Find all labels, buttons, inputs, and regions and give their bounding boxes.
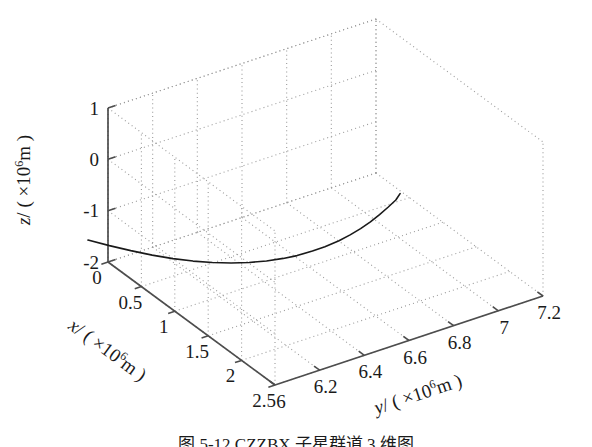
- x-axis-tick: [101, 262, 108, 264]
- figure-container: -2-10100.511.522.566.26.46.66.877.2 z/ (…: [0, 0, 592, 447]
- z-tick-label: -1: [83, 200, 99, 221]
- z-axis-tick: [108, 105, 116, 108]
- y-axis-tick: [359, 351, 365, 355]
- z-axis-tick: [108, 208, 116, 211]
- trajectory-path: [88, 194, 400, 263]
- y-tick-label: 6.8: [448, 332, 472, 353]
- axis-ticks: [101, 105, 543, 387]
- y-axis-tick: [448, 322, 454, 326]
- x-tick-label: 1: [159, 316, 169, 337]
- y-tick-label: 7.2: [537, 302, 561, 323]
- grid-line-floor-x: [175, 222, 443, 311]
- x-axis-tick: [268, 385, 275, 387]
- y-tick-label: 7: [500, 317, 510, 338]
- grid-line-wall-left-horizontal: [108, 211, 275, 334]
- grid-line-wall-left-horizontal: [108, 108, 275, 231]
- grid-line-floor-y: [242, 218, 409, 341]
- axis-titles: z/ ( ×106m )x/ ( ×106m )y/ ( ×106m ): [12, 135, 465, 420]
- box-edge-top-far: [376, 19, 543, 142]
- grid-line-floor-y: [153, 247, 320, 370]
- y-tick-label: 6.4: [358, 361, 382, 382]
- figure-caption: 图 5-12 CZZBX 子星群道 3 维图: [0, 433, 592, 447]
- x-tick-label: 2.5: [252, 390, 276, 411]
- grid-lines: [108, 19, 543, 385]
- y-axis-tick: [537, 292, 543, 296]
- x-tick-label: 0: [92, 267, 102, 288]
- grid-line-floor-y: [331, 188, 498, 311]
- y-tick-label: 6.2: [314, 376, 338, 397]
- y-tick-label: 6: [276, 391, 286, 412]
- y-tick-label: 6.6: [403, 347, 427, 368]
- grid-line-floor-y: [197, 232, 364, 355]
- y-axis-tick: [493, 307, 499, 311]
- data-curve: [88, 194, 400, 263]
- z-axis-tick: [108, 259, 116, 262]
- grid-line-floor-y: [376, 173, 543, 296]
- grid-line-floor-x: [208, 247, 476, 336]
- z-tick-label: 0: [90, 149, 100, 170]
- x-tick-label: 0.5: [119, 292, 143, 313]
- y-axis-tick: [403, 336, 409, 340]
- z-axis-title: z/ ( ×106m ): [12, 135, 35, 226]
- y-axis-title: y/ ( ×106m ): [369, 369, 465, 420]
- z-tick-label: 1: [90, 98, 100, 119]
- x-axis-tick: [168, 311, 175, 313]
- x-axis-title: x/ ( ×106m ): [64, 313, 152, 386]
- x-axis-tick: [135, 287, 142, 289]
- y-axis-tick: [314, 366, 320, 370]
- y-axis-tick: [269, 381, 275, 385]
- x-tick-label: 1.5: [185, 341, 209, 362]
- x-axis-tick: [202, 336, 209, 338]
- grid-line-wall-left-horizontal: [108, 159, 275, 282]
- three-d-plot: -2-10100.511.522.566.26.46.66.877.2 z/ (…: [0, 0, 592, 447]
- x-axis-tick: [235, 360, 242, 362]
- z-axis-tick: [108, 157, 116, 160]
- x-tick-label: 2: [226, 365, 236, 386]
